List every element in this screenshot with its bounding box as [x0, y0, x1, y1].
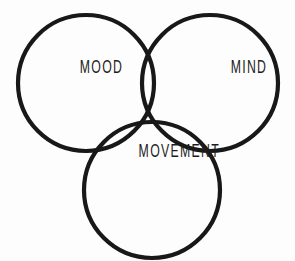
venn-diagram-svg: MOOD MIND MOVEMENT [0, 0, 295, 261]
venn-circle-mood[interactable] [18, 15, 154, 151]
venn-label-mood: MOOD [80, 57, 124, 77]
venn-circle-mind[interactable] [142, 15, 278, 151]
venn-label-mind: MIND [231, 57, 268, 77]
venn-diagram-canvas: MOOD MIND MOVEMENT [0, 0, 295, 261]
venn-label-movement: MOVEMENT [139, 140, 221, 160]
